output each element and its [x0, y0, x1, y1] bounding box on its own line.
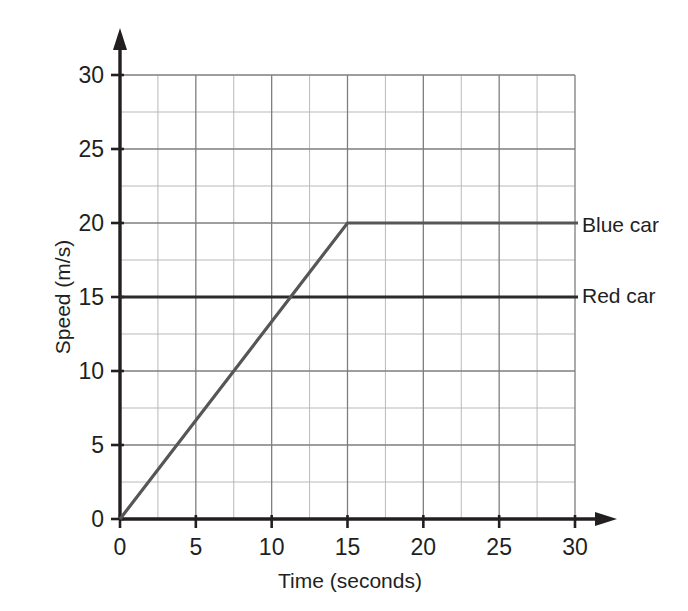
y-tick-label: 5 — [91, 432, 104, 458]
x-tick-label: 25 — [486, 534, 512, 560]
y-tick-label: 15 — [78, 284, 104, 310]
series-label-red-car: Red car — [582, 284, 656, 307]
y-tick-label: 10 — [78, 358, 104, 384]
x-tick-label: 0 — [114, 534, 127, 560]
x-tick-label: 30 — [562, 534, 588, 560]
speed-time-graph-figure: 051015202530 051015202530 Blue car Red c… — [0, 0, 688, 611]
chart-canvas: 051015202530 051015202530 Blue car Red c… — [0, 0, 688, 611]
x-tick-label: 5 — [189, 534, 202, 560]
series-label-blue-car: Blue car — [582, 213, 659, 236]
y-tick-label: 30 — [78, 62, 104, 88]
y-axis-title: Speed (m/s) — [51, 240, 74, 354]
x-tick-label: 10 — [259, 534, 285, 560]
y-tick-label: 25 — [78, 136, 104, 162]
x-tick-label: 15 — [335, 534, 361, 560]
y-tick-label: 20 — [78, 210, 104, 236]
x-axis-title: Time (seconds) — [278, 569, 422, 592]
x-tick-label: 20 — [411, 534, 437, 560]
y-tick-label: 0 — [91, 506, 104, 532]
